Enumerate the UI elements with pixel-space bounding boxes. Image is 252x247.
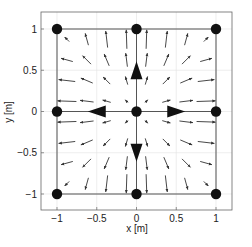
field-arrow [125, 77, 127, 85]
field-arrow [164, 54, 169, 66]
field-arrow [65, 37, 70, 42]
field-arrow [198, 80, 215, 82]
field-arrow [165, 31, 167, 48]
graph-node [52, 106, 62, 116]
field-arrow [185, 33, 188, 45]
graph-node [211, 106, 221, 116]
x-tick-label: −0.5 [87, 213, 107, 224]
field-arrow [163, 77, 170, 84]
field-arrow [106, 175, 108, 192]
x-tick-label: 1 [213, 213, 219, 224]
field-arrow [126, 30, 127, 49]
graph-node [211, 189, 221, 199]
field-arrow [81, 78, 93, 83]
field-arrow [83, 159, 91, 167]
field-arrow [80, 100, 94, 102]
field-arrow [103, 139, 110, 146]
field-arrow [162, 121, 170, 123]
graph-node [52, 24, 62, 34]
field-arrow [180, 140, 192, 145]
field-arrow [204, 37, 209, 42]
field-arrow [179, 121, 193, 123]
graph-node [131, 189, 141, 199]
field-arrow [59, 141, 76, 143]
field-arrow [197, 121, 216, 122]
field-arrow [85, 33, 88, 45]
field-arrow [200, 161, 212, 164]
field-arrow [126, 174, 127, 193]
graph-node [211, 24, 221, 34]
x-tick-label: 0.5 [169, 213, 183, 224]
field-arrow [57, 101, 76, 102]
field-arrow [165, 175, 167, 192]
field-arrow [179, 100, 193, 102]
field-arrow [125, 120, 128, 123]
x-axis-label: x [m] [126, 223, 148, 234]
field-arrow [182, 159, 190, 167]
field-arrow [204, 181, 209, 186]
y-tick-label: 0 [31, 106, 37, 117]
y-tick-label: −1 [26, 189, 38, 200]
field-arrow [145, 77, 147, 85]
y-tick-label: −0.5 [17, 147, 37, 158]
y-axis-label: y [m] [3, 101, 14, 123]
field-arrow [146, 156, 148, 170]
vector-field-plot: −1−0.500.51−1−0.500.51 x [m] y [m] [0, 0, 252, 247]
field-arrow [103, 121, 111, 123]
field-arrow [126, 53, 128, 67]
field-arrow [61, 58, 73, 61]
field-arrow [162, 100, 170, 102]
field-arrow [125, 100, 128, 103]
field-arrow [81, 140, 93, 145]
field-arrow [164, 157, 169, 169]
field-arrow [146, 53, 148, 67]
y-tick-label: 0.5 [23, 65, 37, 76]
field-arrow [182, 56, 190, 64]
field-arrow [125, 138, 127, 146]
field-arrow [80, 121, 94, 123]
field-arrow [200, 58, 212, 61]
field-arrow [146, 30, 147, 49]
field-arrow [65, 181, 70, 186]
x-tick-label: −1 [51, 213, 63, 224]
field-arrow [197, 101, 216, 102]
field-arrow [103, 77, 110, 84]
field-arrow [85, 178, 88, 190]
field-arrow [104, 54, 109, 66]
field-arrow [146, 174, 147, 193]
field-arrow [198, 141, 215, 143]
field-arrow [106, 31, 108, 48]
field-arrow [180, 78, 192, 83]
field-arrow [104, 157, 109, 169]
field-arrow [145, 100, 148, 103]
field-arrow [185, 178, 188, 190]
graph-node [52, 189, 62, 199]
field-arrow [103, 100, 111, 102]
field-arrow [145, 120, 148, 123]
field-arrow [59, 80, 76, 82]
field-arrow [126, 156, 128, 170]
graph-node [131, 24, 141, 34]
y-tick-label: 1 [31, 24, 37, 35]
field-arrow [145, 138, 147, 146]
field-arrow [163, 139, 170, 146]
field-arrow [57, 121, 76, 122]
graph-node [131, 106, 141, 116]
field-arrow [61, 161, 73, 164]
field-arrow [83, 56, 91, 64]
